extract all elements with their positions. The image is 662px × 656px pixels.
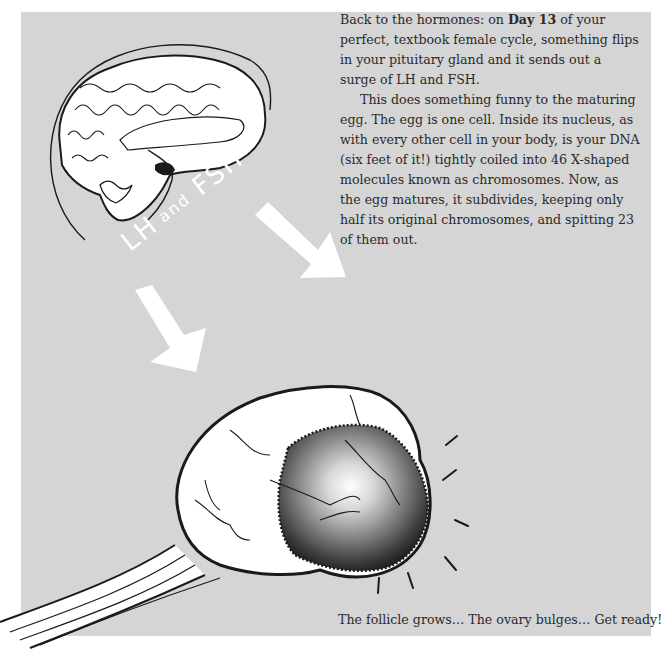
paragraph-1-intro: Back to the hormones: on (340, 12, 508, 27)
day-13-emphasis: Day 13 (508, 12, 556, 27)
paragraph-2: This does something funny to the maturin… (340, 90, 640, 250)
caption: The follicle grows… The ovary bulges… Ge… (338, 612, 662, 627)
paragraph-1: Back to the hormones: on Day 13 of your … (340, 10, 640, 90)
ovary-icon (177, 387, 430, 577)
body-text: Back to the hormones: on Day 13 of your … (340, 10, 640, 250)
hormone-label-and: and (154, 189, 194, 226)
arrow-down-icon (135, 285, 206, 372)
fallopian-tube-icon (0, 545, 220, 648)
brain-icon (59, 56, 265, 221)
arrow-down-right-icon (255, 202, 346, 278)
